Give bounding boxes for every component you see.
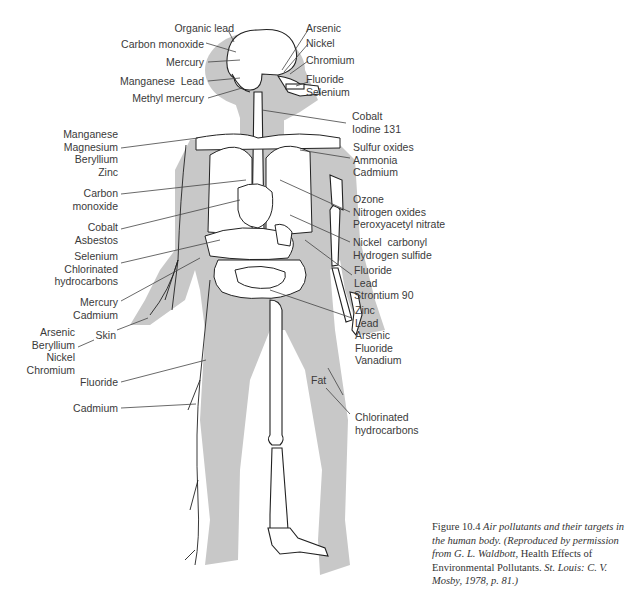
label-selenium-chlorinated: Selenium Chlorinated hydrocarbons	[20, 250, 118, 288]
label-mercury-cadmium: Mercury Cadmium	[20, 296, 118, 321]
label-carbon-monoxide-brain: Carbon monoxide	[84, 38, 204, 51]
label-carbon-monoxide-heart: Carbon monoxide	[20, 187, 118, 212]
label-ozone-group: Ozone Nitrogen oxides Peroxyacetyl nitra…	[353, 193, 445, 231]
label-skin-metals: Arsenic Beryllium Nickel Chromium	[0, 326, 75, 376]
label-manganese-lead: Manganese Lead	[84, 75, 204, 88]
label-cobalt-iodine: Cobalt Iodine 131	[352, 110, 401, 135]
label-chromium-nose: Chromium	[306, 54, 354, 67]
label-blood-metals: Manganese Magnesium Beryllium Zinc	[20, 128, 118, 178]
label-mercury-brain: Mercury	[104, 56, 204, 69]
figure-number: Figure 10.4	[432, 521, 480, 532]
label-bone-group: Fluoride Lead Strontium 90	[354, 264, 414, 302]
pollutant-body-diagram: Organic lead Carbon monoxide Mercury Man…	[0, 0, 630, 591]
label-chlorinated-fat: Chlorinated hydrocarbons	[355, 411, 419, 436]
label-kidney-group: Zinc Lead Arsenic Fluoride Vanadium	[355, 304, 402, 367]
label-cobalt-asbestos: Cobalt Asbestos	[20, 221, 118, 246]
label-arsenic-nose: Arsenic	[306, 22, 341, 35]
label-fat: Fat	[311, 374, 326, 387]
label-nickel-carbonyl: Nickel carbonyl Hydrogen sulfide	[353, 236, 432, 261]
label-skin: Skin	[80, 329, 116, 342]
figure-caption: Figure 10.4 Air pollutants and their tar…	[432, 520, 628, 588]
label-cadmium-left: Cadmium	[20, 402, 118, 415]
label-nickel-nose: Nickel	[306, 37, 335, 50]
label-organic-lead: Organic lead	[110, 22, 234, 35]
label-fluoride-left: Fluoride	[20, 376, 118, 389]
label-methyl-mercury: Methyl mercury	[84, 92, 204, 105]
label-fluoride-selenium: Fluoride Selenium	[306, 73, 350, 98]
label-sulfur-ammonia-cadmium: Sulfur oxides Ammonia Cadmium	[353, 141, 414, 179]
